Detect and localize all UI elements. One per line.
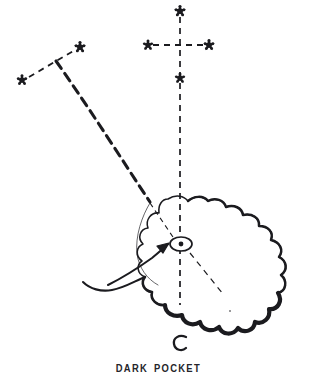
figure-background [0, 0, 317, 382]
dark-pocket-figure: DARK POCKET [0, 0, 317, 382]
dark-pocket-core-marker [170, 237, 192, 251]
figure-canvas [0, 0, 317, 382]
core-dot [179, 242, 184, 247]
cloud-stipple-dot [229, 310, 231, 312]
